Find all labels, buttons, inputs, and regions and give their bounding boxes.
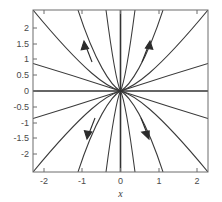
y-tick-label: 1 [24, 54, 29, 64]
y-tick-label: 0.5 [16, 70, 29, 80]
y-tick-label: -2 [21, 149, 29, 159]
y-tick-label: 0 [24, 86, 29, 96]
x-tick-label: -1 [78, 176, 86, 186]
y-tick-label: -1 [21, 118, 29, 128]
x-tick-label: 0 [118, 176, 123, 186]
plot-canvas: 2 1.5 1 0.5 0 -0.5 -1 -1.5 -2 -2 -1 0 1 … [0, 0, 222, 202]
x-tick-label: 1 [156, 176, 161, 186]
phase-portrait-figure: 2 1.5 1 0.5 0 -0.5 -1 -1.5 -2 -2 -1 0 1 … [0, 0, 222, 202]
y-tick-label: 2 [24, 23, 29, 33]
x-tick-label: -2 [40, 176, 48, 186]
y-tick-label: -0.5 [13, 102, 29, 112]
x-tick-label: 2 [194, 176, 199, 186]
x-axis-title: x [117, 188, 123, 199]
y-tick-label: -1.5 [13, 133, 29, 143]
y-tick-label: 1.5 [16, 39, 29, 49]
